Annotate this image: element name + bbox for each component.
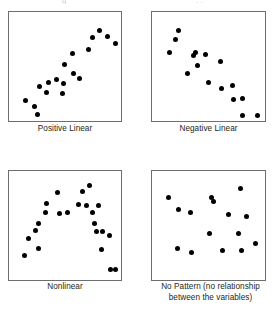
scatter-point bbox=[105, 34, 110, 39]
scatter-point bbox=[207, 231, 212, 236]
scatter-point bbox=[37, 84, 42, 89]
scatter-point bbox=[62, 62, 67, 67]
scatterplot-panel-positive-linear: Positive Linear bbox=[8, 11, 122, 122]
scatter-point bbox=[255, 113, 260, 118]
scatter-point bbox=[76, 202, 81, 207]
scatter-point bbox=[253, 241, 258, 246]
scatter-point bbox=[44, 90, 49, 95]
clipped-header-text-left: g bbox=[62, 0, 66, 4]
scatter-point bbox=[26, 236, 31, 241]
scatter-point bbox=[211, 199, 216, 204]
scatter-point bbox=[189, 250, 194, 255]
scatter-point bbox=[32, 104, 37, 109]
scatter-point bbox=[238, 186, 243, 191]
scatter-point bbox=[23, 98, 28, 103]
scatterplot-panel-nonlinear: Nonlinear bbox=[8, 170, 122, 281]
plot-area bbox=[8, 170, 122, 281]
scatter-point bbox=[230, 83, 235, 88]
scatter-point bbox=[71, 71, 76, 76]
scatter-point bbox=[90, 35, 95, 40]
scatter-point bbox=[218, 59, 223, 64]
clipped-header-text-right: . . bbox=[196, 0, 203, 4]
scatter-point bbox=[54, 77, 59, 82]
scatter-point bbox=[176, 207, 181, 212]
scatter-point bbox=[84, 203, 89, 208]
scatter-point bbox=[113, 41, 118, 46]
scatter-point bbox=[33, 228, 38, 233]
scatter-point bbox=[61, 81, 66, 86]
scatter-point bbox=[57, 211, 62, 216]
scatterplot-figure: g . . Positive Linear Negative Linear No… bbox=[0, 0, 276, 310]
scatter-point bbox=[22, 253, 27, 258]
scatter-point bbox=[188, 210, 193, 215]
scatter-point bbox=[77, 76, 82, 81]
scatter-point bbox=[44, 201, 49, 206]
scatter-point bbox=[43, 210, 48, 215]
scatter-point bbox=[166, 195, 171, 200]
scatter-point bbox=[96, 203, 101, 208]
scatter-point bbox=[86, 47, 91, 52]
scatter-point bbox=[55, 190, 60, 195]
scatter-point bbox=[219, 86, 224, 91]
scatterplot-panel-no-pattern: No Pattern (no relationship between the … bbox=[151, 170, 266, 281]
scatter-point bbox=[99, 247, 104, 252]
scatter-point bbox=[92, 221, 97, 226]
scatter-point bbox=[244, 214, 249, 219]
plot-area bbox=[151, 11, 266, 122]
scatter-point bbox=[220, 248, 225, 253]
scatter-point bbox=[206, 80, 211, 85]
scatter-point bbox=[236, 231, 241, 236]
panel-caption: Positive Linear bbox=[8, 124, 122, 135]
panel-caption: Nonlinear bbox=[8, 282, 122, 293]
scatter-point bbox=[113, 267, 118, 272]
plot-area bbox=[151, 170, 266, 281]
scatter-point bbox=[70, 51, 75, 56]
scatter-point bbox=[239, 248, 244, 253]
scatter-point bbox=[167, 50, 172, 55]
scatter-point bbox=[97, 28, 102, 33]
scatter-point bbox=[35, 112, 40, 117]
scatter-point bbox=[36, 221, 41, 226]
scatter-point bbox=[87, 183, 92, 188]
scatter-point bbox=[226, 212, 231, 217]
scatter-point bbox=[100, 229, 105, 234]
panel-caption: Negative Linear bbox=[151, 124, 266, 135]
scatter-point bbox=[203, 52, 208, 57]
scatter-point bbox=[240, 113, 245, 118]
scatter-point bbox=[195, 63, 200, 68]
scatter-point bbox=[94, 229, 99, 234]
panel-caption: No Pattern (no relationship between the … bbox=[145, 282, 276, 303]
scatter-point bbox=[176, 28, 181, 33]
scatter-point bbox=[46, 80, 51, 85]
scatter-point bbox=[60, 91, 65, 96]
scatterplot-panel-negative-linear: Negative Linear bbox=[151, 11, 266, 122]
scatter-point bbox=[173, 37, 178, 42]
scatter-point bbox=[36, 246, 41, 251]
scatter-point bbox=[185, 71, 190, 76]
scatter-point bbox=[231, 97, 236, 102]
scatter-point bbox=[80, 189, 85, 194]
scatter-point bbox=[107, 233, 112, 238]
scatter-point bbox=[90, 210, 95, 215]
scatter-point bbox=[193, 50, 198, 55]
scatter-point bbox=[240, 96, 245, 101]
plot-area bbox=[8, 11, 122, 122]
scatter-point bbox=[65, 210, 70, 215]
scatter-point bbox=[175, 246, 180, 251]
